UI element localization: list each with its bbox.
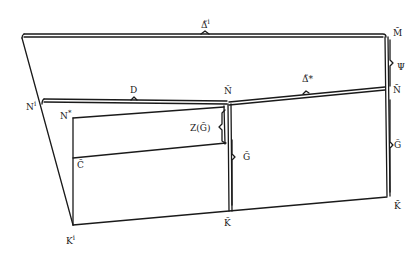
- psi-brace-icon: [390, 40, 393, 86]
- label-n-tilde: Ñ: [224, 85, 232, 96]
- label-n-star: N*: [60, 109, 72, 121]
- label-z-g-tilde: Z(G̃): [190, 122, 210, 133]
- g-tilde-brace-icon: [232, 140, 235, 205]
- label-k-bar: K̄: [394, 200, 401, 211]
- label-c-tilde: C̃: [77, 159, 84, 170]
- right-outer-edge: [385, 37, 393, 196]
- label-g-bar: Ḡ: [394, 139, 401, 150]
- brace-tick-icon: [303, 91, 309, 94]
- left-slant-edge: [22, 38, 73, 225]
- label-n-bar: N̄: [393, 84, 401, 95]
- n-star-edge: [73, 107, 224, 118]
- g-bar-brace-icon: [390, 100, 393, 192]
- top-edge-delta-i: [22, 31, 386, 38]
- delta-star-edge: [229, 87, 385, 105]
- label-m-bar: M̄: [393, 27, 402, 38]
- label-n-i: Ni: [26, 100, 37, 112]
- lattice-diagram: Δ̃i M̄ Ψ N̄ Δ̃* Ñ D Ni N* Z(G̃) G̃ Ḡ C̃ …: [0, 0, 420, 256]
- middle-vertical-edge: [219, 104, 235, 211]
- label-k-i: Ki: [66, 234, 76, 246]
- label-delta-tilde-star: Δ̃*: [302, 74, 313, 84]
- d-edge: [42, 97, 227, 104]
- label-psi: Ψ: [397, 62, 405, 72]
- label-k-tilde: K̃: [224, 217, 231, 228]
- c-tilde-edge: [73, 143, 226, 158]
- label-g-tilde: G̃: [243, 151, 250, 162]
- label-delta-tilde-i: Δ̃i: [201, 18, 211, 30]
- label-d: D: [130, 85, 137, 95]
